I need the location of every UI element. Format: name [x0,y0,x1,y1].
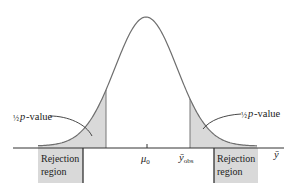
y-obs-label: ȳobs [178,152,194,165]
left-pvalue-label: -value [26,111,53,122]
right-pvalue-leader-line [203,114,241,129]
mu0-label: μ0 [140,153,150,166]
hypothesis-test-diagram: ½ p -value ½ p -value μ0 ȳobs ȳ Rejectio… [0,0,301,194]
left-pvalue-fraction: ½ [13,114,19,123]
normal-density-curve [38,17,257,146]
left-pvalue-p: p [19,111,25,122]
right-pvalue-p: p [247,108,253,119]
right-pvalue-fraction: ½ [241,111,247,120]
rejection-left-line2: region [41,166,67,177]
right-pvalue-label: -value [254,108,281,119]
rejection-right-line1: Rejection [217,153,255,164]
rejection-left-line1: Rejection [41,153,79,164]
axis-label-ybar: ȳ [273,149,279,160]
rejection-right-line2: region [217,166,243,177]
